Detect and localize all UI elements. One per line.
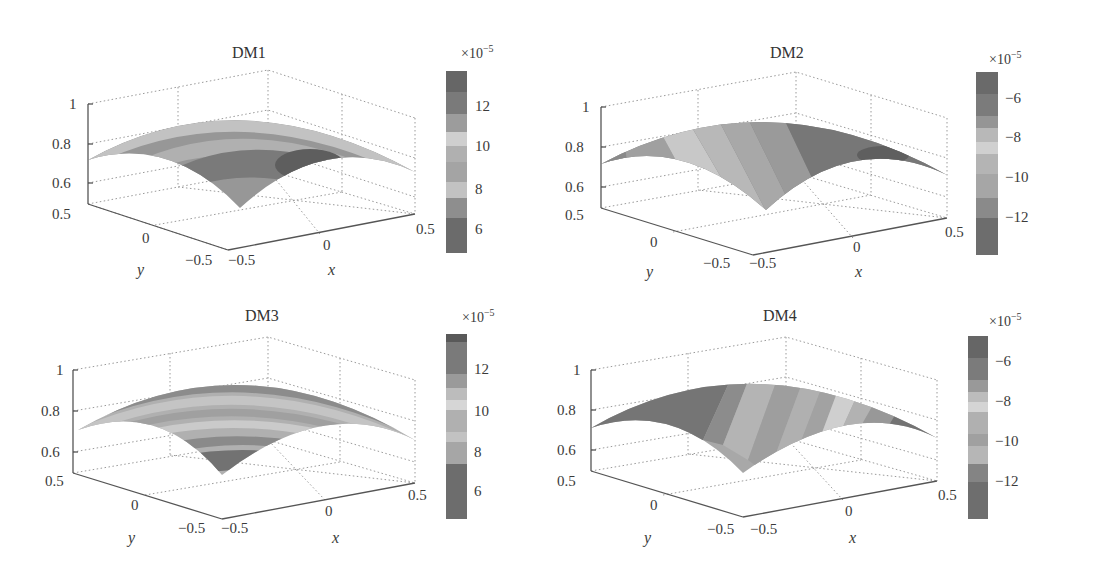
x-axis-label: x bbox=[328, 262, 335, 278]
z-tick: 1 bbox=[582, 100, 590, 115]
z-tick: 0.6 bbox=[565, 180, 584, 195]
x-tick: 0.5 bbox=[938, 488, 957, 503]
colorbar-tick: 12 bbox=[474, 362, 489, 377]
x-tick: 0 bbox=[325, 504, 333, 519]
x-tick: −0.5 bbox=[228, 253, 255, 268]
panel-dm3: DM3 ×10−5 1 0.8 0.6 0.5 0 −0.5 −0.5 0 0.… bbox=[0, 290, 553, 580]
colorbar-tick: −12 bbox=[995, 474, 1018, 489]
z-tick: 1 bbox=[69, 97, 77, 112]
z-tick: 0.6 bbox=[41, 445, 60, 460]
y-tick: 0 bbox=[650, 498, 658, 513]
x-tick: 0 bbox=[853, 240, 861, 255]
colorbar-tick: 8 bbox=[474, 445, 482, 460]
panel-dm4: DM4 ×10−5 1 0.8 0.6 0.5 0 −0.5 −0.5 0 0.… bbox=[553, 290, 1106, 580]
panel-dm2: DM2 ×10−5 1 0.8 0.6 0.5 0 −0.5 −0.5 0 0.… bbox=[553, 0, 1106, 290]
z-tick: 0.5 bbox=[565, 208, 584, 223]
x-axis-label: x bbox=[855, 264, 862, 280]
colorbar-tick: −6 bbox=[995, 354, 1011, 369]
z-tick: 0.8 bbox=[41, 404, 60, 419]
colorbar-exponent: ×10−5 bbox=[989, 312, 1022, 329]
surface-plot-dm3 bbox=[0, 290, 553, 581]
x-tick: 0 bbox=[845, 504, 853, 519]
panel-title: DM1 bbox=[232, 44, 266, 62]
x-tick: −0.5 bbox=[221, 521, 248, 536]
z-tick: 0.8 bbox=[52, 137, 71, 152]
colorbar-dm4 bbox=[968, 336, 988, 519]
colorbar-exponent: ×10−5 bbox=[462, 308, 495, 325]
x-tick: 0.5 bbox=[945, 225, 964, 240]
y-tick: 0 bbox=[131, 498, 139, 513]
y-tick: 0 bbox=[650, 235, 658, 250]
x-tick: 0.5 bbox=[408, 488, 427, 503]
colorbar-tick: 10 bbox=[474, 404, 489, 419]
y-tick: −0.5 bbox=[707, 522, 734, 537]
x-tick: 0.5 bbox=[416, 222, 435, 237]
colorbar-tick: −8 bbox=[1005, 130, 1021, 145]
surface-plot-dm4 bbox=[553, 290, 1106, 581]
z-tick: 0.6 bbox=[557, 443, 576, 458]
colorbar-dm2 bbox=[976, 72, 998, 255]
z-tick: 0.6 bbox=[52, 176, 71, 191]
colorbar-tick: 12 bbox=[475, 99, 490, 114]
y-axis-label: y bbox=[128, 530, 135, 546]
colorbar-tick: −10 bbox=[995, 434, 1018, 449]
x-tick: 0 bbox=[323, 238, 331, 253]
z-tick: 0.8 bbox=[557, 403, 576, 418]
surface-plot-dm2 bbox=[553, 0, 1106, 290]
y-axis-label: y bbox=[644, 530, 651, 546]
y-tick: −0.5 bbox=[178, 521, 205, 536]
x-tick: −0.5 bbox=[750, 522, 777, 537]
y-tick: −0.5 bbox=[185, 253, 212, 268]
panel-dm1: DM1 ×10−5 1 0.8 0.6 0.5 0 −0.5 −0.5 0 0.… bbox=[0, 0, 553, 290]
x-axis-label: x bbox=[332, 530, 339, 546]
colorbar-tick: 10 bbox=[475, 139, 490, 154]
x-tick: −0.5 bbox=[749, 256, 776, 271]
y-tick: 0 bbox=[142, 231, 150, 246]
y-axis-label: y bbox=[137, 262, 144, 278]
panel-title: DM4 bbox=[763, 307, 797, 325]
z-tick: 0.5 bbox=[557, 474, 576, 489]
colorbar-dm3 bbox=[446, 334, 467, 519]
colorbar-exponent: ×10−5 bbox=[461, 44, 494, 61]
x-axis-label: x bbox=[849, 530, 856, 546]
z-tick: 0.5 bbox=[52, 207, 71, 222]
panel-title: DM3 bbox=[245, 307, 279, 325]
colorbar-tick: −6 bbox=[1005, 91, 1021, 106]
y-tick: −0.5 bbox=[703, 256, 730, 271]
colorbar-tick: 6 bbox=[475, 222, 483, 237]
colorbar-tick: 8 bbox=[475, 182, 483, 197]
colorbar-tick: −10 bbox=[1005, 170, 1028, 185]
z-tick: 1 bbox=[56, 363, 64, 378]
y-axis-label: y bbox=[646, 264, 653, 280]
colorbar-tick: −8 bbox=[995, 394, 1011, 409]
panel-title: DM2 bbox=[770, 44, 804, 62]
z-tick: 0.8 bbox=[565, 140, 584, 155]
colorbar-exponent: ×10−5 bbox=[989, 50, 1022, 67]
z-tick: 0.5 bbox=[45, 474, 64, 489]
colorbar-dm1 bbox=[446, 71, 467, 253]
colorbar-tick: −12 bbox=[1005, 210, 1028, 225]
z-tick: 1 bbox=[573, 363, 581, 378]
colorbar-tick: 6 bbox=[474, 484, 482, 499]
